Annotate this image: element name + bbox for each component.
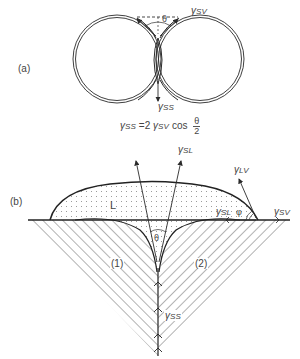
gamma-sv-arrow-left bbox=[137, 19, 156, 36]
left-sphere-inner bbox=[76, 18, 159, 101]
gamma-sv-label-a: γSV bbox=[191, 5, 207, 16]
grain-2-hatching bbox=[150, 215, 300, 359]
subscript: SL bbox=[183, 146, 193, 155]
subscript: SV bbox=[279, 208, 290, 217]
subscript: SS bbox=[170, 312, 181, 321]
right-sphere-inner bbox=[159, 18, 242, 101]
phi-label: φ bbox=[236, 207, 242, 217]
panel-a-label: (a) bbox=[18, 63, 30, 74]
theta-over-two: θ 2 bbox=[193, 117, 200, 136]
gamma-sv-label-b: γSV bbox=[274, 206, 290, 217]
frac-denominator: 2 bbox=[193, 127, 200, 136]
grain-1-label: (1) bbox=[110, 258, 124, 269]
gamma-sl-edge-label: γSL bbox=[216, 206, 231, 217]
subscript: SL bbox=[221, 208, 231, 217]
young-equation-formula: γSS =2 γSV cos θ 2 bbox=[120, 117, 200, 136]
panel-b-label: (b) bbox=[10, 196, 22, 207]
gamma-lv-label: γLV bbox=[234, 164, 249, 175]
equals-two: =2 bbox=[139, 120, 150, 131]
subscript: SV bbox=[196, 7, 207, 16]
gamma-ss-label-b: γSS bbox=[164, 310, 182, 321]
gamma-sl-top-label: γSL bbox=[178, 144, 193, 155]
theta-label-b: θ bbox=[154, 233, 159, 243]
cos-function: cos bbox=[172, 120, 188, 131]
subscript: SV bbox=[158, 122, 169, 131]
subscript: SS bbox=[125, 122, 136, 131]
liquid-label: L bbox=[110, 199, 116, 211]
diagram-canvas bbox=[0, 0, 300, 359]
subscript: SS bbox=[163, 103, 174, 112]
subscript: LV bbox=[239, 166, 249, 175]
gamma-ss-label-a: γSS bbox=[158, 101, 174, 112]
theta-label-a: θ bbox=[162, 14, 167, 24]
sphere-pair bbox=[73, 15, 244, 103]
grain-2-label: (2) bbox=[194, 258, 208, 269]
right-sphere-outer bbox=[156, 15, 244, 103]
